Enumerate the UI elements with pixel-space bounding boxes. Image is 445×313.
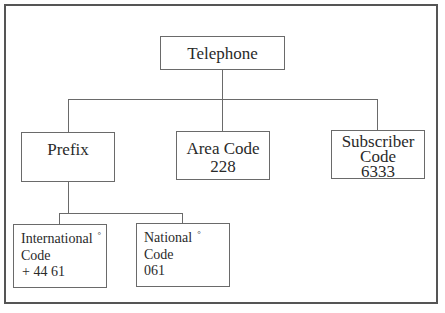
connector-subscriber-up (377, 99, 378, 130)
node-international-value: + 44 61 (21, 264, 101, 280)
node-international-label-1: International (21, 231, 93, 246)
degree-marker-icon: ° (98, 230, 102, 240)
connector-horizontal-bottom (59, 213, 183, 214)
node-area-code-label: Area Code (177, 140, 269, 158)
node-national-label-2: Code (144, 247, 201, 263)
connector-prefix-up (68, 99, 69, 132)
node-national-code: National° Code 061 (136, 223, 230, 287)
node-subscriber-value: 6333 (332, 164, 424, 179)
node-prefix: Prefix (21, 132, 115, 182)
connector-horizontal-top (68, 99, 378, 100)
node-telephone: Telephone (160, 36, 285, 70)
connector-root-down (222, 69, 223, 131)
node-subscriber-code: Subscriber Code 6333 (331, 130, 425, 179)
node-area-code-value: 228 (177, 158, 269, 176)
node-national-value: 061 (144, 263, 201, 279)
connector-national-up (182, 213, 183, 223)
degree-marker-icon: ° (197, 229, 201, 239)
node-national-text: National° Code 061 (144, 230, 201, 279)
node-area-code: Area Code 228 (176, 131, 270, 180)
node-international-text: International° Code + 44 61 (21, 231, 101, 280)
node-international-code: International° Code + 44 61 (13, 224, 107, 288)
node-telephone-label: Telephone (161, 45, 284, 63)
connector-prefix-down (68, 181, 69, 214)
connector-international-up (59, 213, 60, 224)
node-prefix-label: Prefix (22, 141, 114, 159)
node-national-label-1: National (144, 230, 192, 245)
node-international-label-2: Code (21, 248, 101, 264)
